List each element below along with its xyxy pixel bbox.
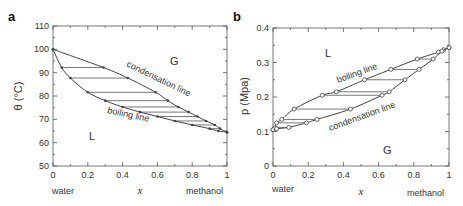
y-tick-label: 50 [39,161,49,171]
y-tick-label: 0.1 [256,127,269,137]
data-point-marker [315,117,319,121]
y-tick-label: 0.4 [256,23,269,33]
data-point-marker [403,78,407,82]
data-point-marker [320,93,324,97]
x-tick-label: 0.4 [116,170,129,180]
data-point-marker [52,48,55,51]
data-point-marker [387,90,391,94]
panel-b-liquid-region-label: L [325,47,331,59]
panel-a-boiling-line-label: boiling line [107,105,151,124]
data-point-marker [415,57,419,61]
x-tick-label: 0.6 [372,170,385,180]
data-point-marker [334,90,338,94]
panel-a-gas-region-label: G [170,55,179,67]
data-point-marker [187,111,190,114]
panel-a-x-axis-label: x [137,184,143,196]
y-tick-label: 0.2 [256,92,269,102]
data-point-marker [275,127,279,131]
data-point-marker [380,93,384,97]
panel-b-gas-region-label: G [383,144,392,156]
panel-b-x-axis-label: x [358,185,364,197]
data-point-marker [280,117,284,121]
panel-b-pressure-composition-chart: b 00.20.40.60.8100.10.20.30.4 p (Mpa) x … [233,9,452,198]
panel-a-methanol-label: methanol [186,186,223,196]
data-point-marker [174,120,177,123]
data-point-marker [104,99,107,102]
x-tick-label: 0.4 [337,170,350,180]
data-point-marker [167,99,170,102]
data-point-marker [389,67,393,71]
data-point-marker [431,57,435,61]
x-tick-label: 0 [50,170,55,180]
y-tick-label: 80 [39,91,49,101]
data-point-marker [287,125,291,129]
data-point-marker [292,107,296,111]
data-point-marker [214,124,217,127]
data-point-marker [205,120,208,123]
y-tick-label: 70 [39,114,49,124]
panel-a-water-label: water [51,186,74,196]
panel-b-water-label: water [271,184,294,194]
x-tick-label: 0.2 [82,170,95,180]
data-point-marker [87,91,90,94]
data-point-marker [417,67,421,71]
x-tick-label: 1 [446,170,451,180]
data-point-marker [217,130,220,133]
data-point-marker [363,78,367,82]
panel-a-plot-frame [53,26,227,166]
data-point-marker [275,121,279,125]
panel-b-axes: 00.20.40.60.8100.10.20.30.4 [256,23,451,180]
data-point-marker [348,107,352,111]
x-tick-label: 0 [270,170,275,180]
data-point-marker [60,66,63,69]
data-point-marker [226,131,229,134]
y-tick-label: 90 [39,68,49,78]
y-tick-label: 110 [35,21,49,31]
panel-b-boiling-line-label: boiling line [335,61,378,85]
data-point-marker [219,127,222,130]
x-tick-label: 0.8 [408,170,421,180]
data-point-marker [127,77,130,80]
panel-b-methanol-label: methanol [407,188,444,198]
y-tick-label: 100 [34,44,49,54]
data-point-marker [191,124,194,127]
data-point-marker [196,115,199,118]
x-tick-label: 0.2 [302,170,315,180]
panel-b-letter: b [233,9,241,24]
x-tick-label: 1 [224,170,229,180]
panel-a-letter: a [8,9,16,24]
panel-a-liquid-region-label: L [89,130,95,142]
data-point-marker [102,66,105,69]
panel-a-temperature-composition-chart: a 00.20.40.60.815060708090100110 θ (°C) … [8,9,230,196]
y-tick-label: 0.3 [256,58,269,68]
panel-a-y-axis-label: θ (°C) [12,82,24,111]
data-point-marker [208,127,211,130]
y-tick-label: 60 [39,138,49,148]
data-point-marker [69,77,72,80]
data-point-marker [156,115,159,118]
x-tick-label: 0.6 [151,170,164,180]
data-point-marker [304,121,308,125]
figure: a 00.20.40.60.815060708090100110 θ (°C) … [0,0,463,206]
data-point-marker [440,49,444,53]
data-point-marker [154,91,157,94]
x-tick-label: 0.8 [186,170,199,180]
panel-b-y-axis-label: p (Mpa) [238,77,250,115]
data-point-marker [177,106,180,109]
y-tick-label: 0 [264,161,269,171]
panel-b-plot-frame [273,28,449,166]
data-point-marker [447,46,451,50]
